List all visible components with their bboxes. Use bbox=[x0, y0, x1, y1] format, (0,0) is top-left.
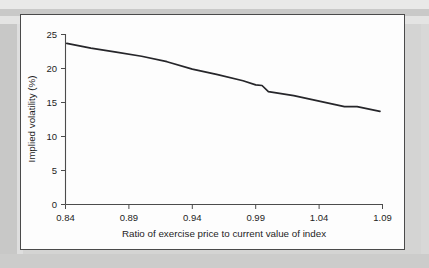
x-tick-label-0-94: 0.94 bbox=[183, 212, 202, 223]
y-tick-label-10: 10 bbox=[46, 131, 57, 142]
x-tick-label-0-99: 0.99 bbox=[246, 212, 265, 223]
page-margin-right bbox=[421, 0, 429, 268]
page-margin-top bbox=[0, 0, 429, 9]
y-tick-label-0: 0 bbox=[52, 199, 57, 210]
x-tick-label-1-09: 1.09 bbox=[373, 212, 392, 223]
y-tick-label-20: 20 bbox=[46, 63, 57, 74]
y-tick-label-15: 15 bbox=[46, 97, 57, 108]
page-margin-left bbox=[0, 0, 17, 268]
line-chart-svg: 25 20 15 10 5 0 0.84 0.89 0.94 bbox=[21, 15, 404, 249]
volatility-skew-line bbox=[67, 43, 380, 111]
plot-area: 25 20 15 10 5 0 0.84 0.89 0.94 bbox=[21, 15, 404, 249]
page-margin-bottom bbox=[0, 254, 429, 268]
y-axis-title: Implied volatility (%) bbox=[26, 75, 37, 162]
y-tick-label-5: 5 bbox=[52, 165, 57, 176]
y-axis-ticks bbox=[61, 35, 66, 205]
scanned-page: 25 20 15 10 5 0 0.84 0.89 0.94 bbox=[0, 0, 429, 268]
chart-figure: 25 20 15 10 5 0 0.84 0.89 0.94 bbox=[20, 14, 405, 250]
x-tick-label-0-89: 0.89 bbox=[120, 212, 138, 223]
x-axis-title: Ratio of exercise price to current value… bbox=[122, 228, 326, 239]
x-axis-ticks bbox=[66, 205, 383, 210]
x-tick-label-1-04: 1.04 bbox=[310, 212, 329, 223]
x-tick-label-0-84: 0.84 bbox=[56, 212, 75, 223]
y-tick-label-25: 25 bbox=[46, 29, 57, 40]
